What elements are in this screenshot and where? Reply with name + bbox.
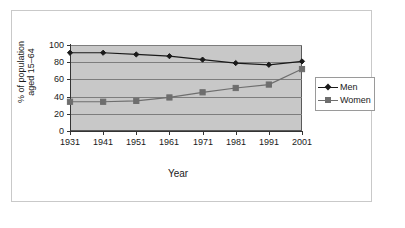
y-tick-label: 60 <box>38 75 64 84</box>
data-point-men-1941 <box>101 50 106 55</box>
series-line-men <box>70 53 302 65</box>
x-tick-mark <box>70 132 71 135</box>
x-tick-label: 1931 <box>55 137 85 147</box>
x-tick-mark <box>169 132 170 135</box>
x-tick-mark <box>236 132 237 135</box>
y-tick-label: 40 <box>38 93 64 102</box>
data-point-men-1951 <box>134 52 139 57</box>
y-tick-label: 80 <box>38 58 64 67</box>
data-point-women-1981 <box>233 85 238 90</box>
data-point-women-2001 <box>299 66 304 71</box>
data-point-men-2001 <box>299 59 304 64</box>
y-tick-label: 20 <box>38 110 64 119</box>
legend-label: Women <box>338 95 371 106</box>
x-tick-mark <box>103 132 104 135</box>
y-axis-title: % of population aged 15–64 <box>16 22 36 122</box>
x-tick-mark <box>302 132 303 135</box>
x-tick-label: 1971 <box>188 137 218 147</box>
line-chart: 020406080100 193119411951196119711981199… <box>0 0 405 228</box>
x-tick-mark <box>136 132 137 135</box>
x-axis-title: Year <box>118 168 238 179</box>
x-tick-label: 1941 <box>88 137 118 147</box>
data-point-women-1961 <box>167 95 172 100</box>
data-point-men-1931 <box>67 50 72 55</box>
y-axis-title-line1: % of population <box>16 41 26 103</box>
data-point-men-1971 <box>200 57 205 62</box>
x-tick-label: 1991 <box>254 137 284 147</box>
y-axis-title-line2: aged 15–64 <box>26 48 36 96</box>
x-tick-label: 1981 <box>221 137 251 147</box>
x-tick-mark <box>269 132 270 135</box>
data-point-women-1931 <box>67 99 72 104</box>
x-tick-label: 1951 <box>121 137 151 147</box>
data-point-men-1981 <box>233 60 238 65</box>
chart-legend: MenWomen <box>315 77 375 111</box>
x-tick-mark <box>203 132 204 135</box>
data-point-men-1991 <box>266 62 271 67</box>
legend-marker-square-icon <box>318 95 338 106</box>
series-layer <box>70 45 302 131</box>
data-point-women-1941 <box>101 99 106 104</box>
data-point-women-1971 <box>200 90 205 95</box>
data-point-men-1961 <box>167 54 172 59</box>
data-point-women-1951 <box>134 98 139 103</box>
legend-label: Men <box>338 82 358 93</box>
y-tick-label: 100 <box>38 41 64 50</box>
data-point-women-1991 <box>266 82 271 87</box>
x-tick-label: 1961 <box>154 137 184 147</box>
legend-item-men: Men <box>318 81 372 94</box>
legend-marker-diamond-icon <box>318 82 338 93</box>
x-tick-label: 2001 <box>287 137 317 147</box>
legend-item-women: Women <box>318 94 372 107</box>
y-tick-label: 0 <box>38 127 64 136</box>
